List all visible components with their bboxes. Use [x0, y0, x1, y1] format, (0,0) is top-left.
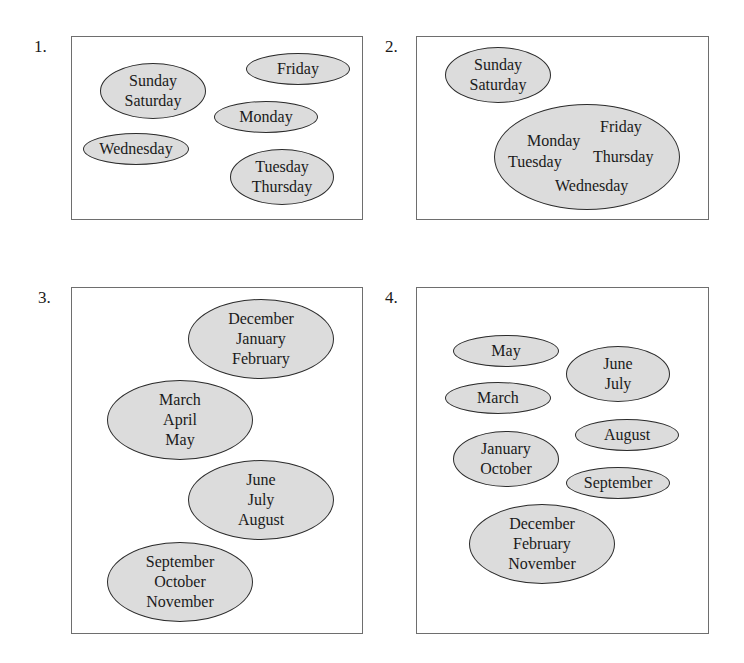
group-ellipse: August — [575, 419, 679, 451]
group-item: Sunday — [129, 71, 177, 91]
group-ellipse: September — [566, 467, 670, 499]
group-item: Thursday — [593, 147, 653, 167]
group-ellipse: September October November — [107, 542, 253, 622]
group-ellipse: May — [453, 335, 559, 367]
group-item: February — [232, 349, 290, 369]
group-item: December — [509, 514, 575, 534]
panel-number: 2. — [385, 38, 398, 55]
group-item: Saturday — [125, 91, 182, 111]
group-item: June — [603, 354, 632, 374]
group-item: Sunday — [474, 55, 522, 75]
group-item: March — [477, 388, 519, 408]
group-ellipse: December February November — [469, 504, 615, 584]
group-ellipse: Wednesday — [83, 133, 189, 165]
group-item: Wednesday — [555, 176, 628, 196]
group-ellipse: January October — [453, 431, 559, 487]
group-item: Saturday — [470, 75, 527, 95]
group-item: Monday — [239, 107, 292, 127]
group-ellipse: Sunday Saturday — [445, 47, 551, 103]
group-ellipse: Sunday Saturday — [100, 63, 206, 119]
group-item: January — [481, 439, 531, 459]
group-item: October — [154, 572, 206, 592]
group-ellipse: June July — [566, 346, 670, 402]
group-item: August — [604, 425, 650, 445]
group-item: May — [165, 430, 194, 450]
group-item: Wednesday — [99, 139, 172, 159]
group-item: December — [228, 309, 294, 329]
panel-number: 3. — [38, 289, 51, 306]
group-item: August — [238, 510, 284, 530]
group-ellipse: December January February — [188, 299, 334, 379]
group-ellipse: March April May — [107, 380, 253, 460]
group-ellipse: Monday — [214, 101, 318, 133]
group-item: Tuesday — [255, 157, 309, 177]
group-item: February — [513, 534, 571, 554]
panel-number: 1. — [34, 38, 47, 55]
group-item: March — [159, 390, 201, 410]
group-item: Tuesday — [508, 152, 562, 172]
group-item: July — [248, 490, 275, 510]
group-item: Monday — [527, 131, 580, 151]
group-item: Friday — [277, 59, 319, 79]
group-item: September — [146, 552, 214, 572]
group-ellipse: June July August — [188, 460, 334, 540]
group-ellipse: Monday Tuesday Friday Thursday Wednesday — [494, 104, 680, 210]
group-item: July — [605, 374, 632, 394]
group-item: November — [508, 554, 576, 574]
group-item: May — [491, 341, 520, 361]
group-item: April — [163, 410, 197, 430]
group-ellipse: Tuesday Thursday — [230, 149, 334, 205]
panel-number: 4. — [385, 289, 398, 306]
group-item: Friday — [600, 117, 642, 137]
group-item: June — [246, 470, 275, 490]
group-item: January — [236, 329, 286, 349]
group-ellipse: Friday — [246, 53, 350, 85]
group-item: November — [146, 592, 214, 612]
group-ellipse: March — [445, 382, 551, 414]
group-item: September — [584, 473, 652, 493]
group-item: October — [480, 459, 532, 479]
group-item: Thursday — [252, 177, 312, 197]
